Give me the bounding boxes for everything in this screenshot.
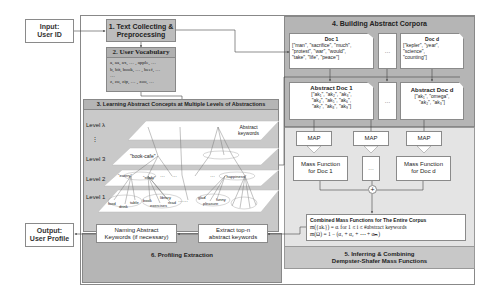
output-value: User Profile <box>26 235 73 243</box>
output-box: Output: User Profile <box>25 223 74 247</box>
abstract-doc-d: Abstract Doc d ["ak₁", "omega", "ak₂", "… <box>400 82 464 120</box>
combined-mass-title: Combined Mass Functions for The Entire C… <box>310 217 462 224</box>
node-table: table <box>130 200 139 205</box>
mass-function-line: Mass Function <box>397 161 450 168</box>
node-exercises: exercises <box>150 203 167 208</box>
node-drink: drink <box>119 204 128 209</box>
doc-d: Doc d ["kepler", "year", "science", "cou… <box>400 33 464 69</box>
formula-2: m(Ω) = 1 − (α₁ + α₂ + ⋯ + αₘ) <box>310 231 462 238</box>
step5-title-line1: 5. Inferring & Combining <box>285 251 474 258</box>
node-glad: glad <box>198 195 206 200</box>
mass-function-line: for Doc d <box>397 168 450 175</box>
node-ellipsis: … <box>172 172 177 178</box>
abstract-doc-d-line: "ak₂", "ak₃"] <box>403 99 461 105</box>
extract-line: abstract keywords <box>199 234 267 241</box>
node-funny: funny <box>216 197 226 202</box>
abstract-doc-ellipsis: … <box>378 82 397 120</box>
mass-function-doc-d: Mass Function for Doc d <box>396 156 451 181</box>
map-box-d: MAP <box>406 131 442 146</box>
naming-line: Naming Abstract <box>97 227 176 234</box>
abstract-doc-1: Abstract Doc 1 ["ak₁", "ak₂", "ak₃", "ak… <box>289 82 374 120</box>
doc-1-line: "take", "life", "peace"] <box>292 54 371 60</box>
extract-top-n-box: Extract top-n abstract keywords <box>198 224 268 243</box>
step4-title: 4. Building Abstract Corpora <box>285 17 474 31</box>
node-happiness: "happiness" <box>225 174 246 179</box>
combine-plus-icon: + <box>368 185 377 194</box>
naming-abstract-keywords-box: Naming Abstract Keywords (if necessary) <box>96 224 177 243</box>
output-label: Output: <box>26 227 73 235</box>
node-study: "study" <box>143 175 155 180</box>
node-eatery: "eatery" <box>118 173 132 178</box>
abstract-label-line: keywords <box>238 130 259 136</box>
abstract-keywords-label: Abstract keywords <box>238 124 259 136</box>
mass-function-doc-1: Mass Function for Doc 1 <box>293 156 348 181</box>
node-ellipsis: … <box>160 172 165 178</box>
doc-ellipsis: … <box>378 33 397 69</box>
step5-title: 5. Inferring & Combining Dempster-Shafer… <box>285 246 474 268</box>
mass-function-line: Mass Function <box>294 161 347 168</box>
node-read: read <box>168 200 176 205</box>
doc-1: Doc 1 ["man", "sacrifice", "much", "prot… <box>289 33 374 69</box>
map-box-1: MAP <box>296 131 332 146</box>
node-ellipsis: …… <box>178 197 188 203</box>
step6-title: 6. Profiling Extraction <box>83 248 281 262</box>
mass-function-ellipsis: … <box>362 156 380 181</box>
node-ellipsis: … <box>210 172 215 178</box>
node-food: food <box>108 201 116 206</box>
extract-line: Extract top-n <box>199 227 267 234</box>
combined-mass-box: Combined Mass Functions for The Entire C… <box>306 214 466 241</box>
mass-function-line: for Doc 1 <box>294 168 347 175</box>
doc-d-line: "counting"] <box>403 54 461 60</box>
naming-line: Keywords (if necessary) <box>97 234 176 241</box>
map-box-ellipsis: MAP <box>353 131 389 146</box>
step5-title-line2: Dempster-Shafer Mass Functions <box>285 258 474 265</box>
node-book-cafe: "book-cafe" <box>130 153 156 159</box>
formula-1: m({akᵢ}) = αᵢ for 1 ≤ i ≤ #abstract keyw… <box>310 224 462 231</box>
abstract-doc-1-line: "ak₇", "ak₈", "ak₉"] <box>292 103 371 109</box>
